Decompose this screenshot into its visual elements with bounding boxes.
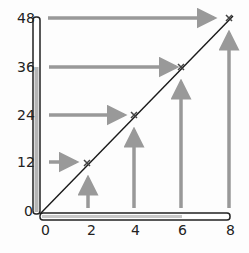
y-tick-36: 36 [17,60,35,74]
x-tick-0: 0 [41,223,50,237]
x-tick-6: 6 [178,223,187,237]
y-tick-48: 48 [17,11,35,25]
x-tick-8: 8 [226,223,235,237]
y-tick-0: 0 [24,204,33,218]
x-tick-4: 4 [131,223,140,237]
horizontal-arrows [48,18,214,162]
diagram: 48 36 24 12 0 0 2 4 6 8 [0,0,249,253]
x-axis-bar [40,213,230,220]
x-tick-2: 2 [87,223,96,237]
y-tick-12: 12 [17,155,35,169]
y-tick-24: 24 [17,108,35,122]
vertical-arrows [88,33,229,208]
point-markers [84,15,232,166]
diagram-graphics [0,0,249,253]
